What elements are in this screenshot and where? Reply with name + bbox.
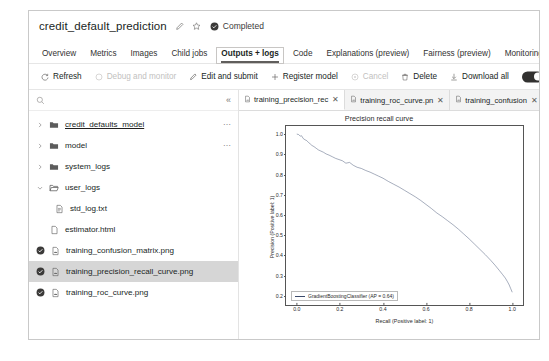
- pivot-tabs: Overview Metrics Images Child jobs Outpu…: [29, 41, 539, 64]
- chart-x-tick: 0.2: [336, 306, 343, 312]
- toggle-switch[interactable]: [522, 71, 540, 82]
- chart-x-axis-label: Recall (Positive label: 1): [285, 318, 524, 324]
- chevron-right-icon[interactable]: [33, 122, 46, 128]
- chart-legend: GradientBoostingClassifier (AP = 0.64): [291, 291, 398, 301]
- refresh-button[interactable]: Refresh: [41, 72, 82, 81]
- tree-item-label[interactable]: system_logs: [62, 162, 110, 171]
- close-icon[interactable]: ✕: [437, 96, 444, 105]
- tree-item-label[interactable]: training_precision_recall_curve.png: [63, 267, 193, 276]
- close-icon[interactable]: ✕: [531, 96, 538, 105]
- delete-button[interactable]: Delete: [401, 72, 437, 81]
- cancel-icon: [351, 73, 359, 81]
- debug-and-monitor-label: Debug and monitor: [107, 72, 177, 81]
- chart-plot-area: GradientBoostingClassifier (AP = 0.64) 0…: [285, 125, 524, 306]
- chart-y-axis-label: Precision (Positive label: 1): [269, 195, 275, 258]
- file-image-icon: [47, 246, 63, 256]
- completed-check-icon: [33, 267, 47, 276]
- overflow-menu-icon[interactable]: ⋯: [223, 120, 232, 129]
- tab-fairness[interactable]: Fairness (preview): [416, 49, 497, 63]
- chart-x-tick: 0.0: [293, 306, 300, 312]
- edit-and-submit-button[interactable]: Edit and submit: [189, 72, 257, 81]
- file-image-icon: [47, 288, 63, 298]
- tab-overview[interactable]: Overview: [35, 49, 83, 63]
- tree-row[interactable]: user_logs: [29, 177, 238, 198]
- tab-images[interactable]: Images: [124, 49, 165, 63]
- tree-item-label[interactable]: estimator.html: [62, 225, 115, 234]
- pencil-icon: [189, 73, 197, 81]
- tab-code[interactable]: Code: [286, 49, 320, 63]
- tab-child-jobs[interactable]: Child jobs: [164, 49, 214, 63]
- tab-metrics[interactable]: Metrics: [83, 49, 123, 63]
- double-chevron-left-icon[interactable]: «: [224, 95, 233, 105]
- pencil-icon[interactable]: [175, 22, 184, 31]
- completed-check-icon: [210, 17, 219, 35]
- tree-row[interactable]: training_roc_curve.png: [29, 282, 238, 303]
- file-text-icon: [51, 204, 67, 214]
- job-detail-window: credit_default_prediction Completed Over…: [28, 10, 540, 340]
- folder-icon: [46, 141, 62, 151]
- chart-title: Precision recall curve: [239, 114, 519, 123]
- trash-icon: [401, 73, 409, 81]
- title-row: credit_default_prediction Completed: [29, 11, 539, 41]
- file-tab-label: training_confusion: [465, 96, 527, 105]
- file-tab-roc-curve[interactable]: training_roc_curve.pn ✕: [345, 90, 450, 110]
- register-model-button[interactable]: Register model: [271, 72, 338, 81]
- tab-monitoring[interactable]: Monitoring: [498, 49, 540, 63]
- search-input[interactable]: [45, 96, 224, 105]
- close-icon[interactable]: ✕: [332, 95, 339, 104]
- download-all-button[interactable]: Download all: [450, 72, 509, 81]
- file-image-icon: [47, 267, 63, 277]
- chevron-right-icon[interactable]: [33, 143, 46, 149]
- tree-row[interactable]: credit_defaults_model ⋯: [29, 114, 238, 135]
- image-file-icon: [350, 95, 357, 105]
- tree-row[interactable]: training_confusion_matrix.png: [29, 240, 238, 261]
- search-row: «: [29, 90, 238, 111]
- tree-row[interactable]: estimator.html: [29, 219, 238, 240]
- view-toggle[interactable]: [522, 71, 540, 82]
- tree-item-label[interactable]: std_log.txt: [67, 204, 107, 213]
- tree-row[interactable]: system_logs: [29, 156, 238, 177]
- chart-y-tick: 0.2: [276, 293, 283, 299]
- command-bar: Refresh Debug and monitor Edit and submi…: [29, 64, 539, 90]
- star-icon[interactable]: [192, 22, 201, 31]
- tab-explanations[interactable]: Explanations (preview): [319, 49, 416, 63]
- tree-row[interactable]: model ⋯: [29, 135, 238, 156]
- tree-row[interactable]: training_precision_recall_curve.png: [29, 261, 238, 282]
- chart-y-tick: 0.6: [276, 212, 283, 218]
- chart-x-tick: 0.8: [466, 306, 473, 312]
- download-all-label: Download all: [462, 72, 509, 81]
- status-label: Completed: [223, 21, 264, 31]
- chart-y-tick: 0.5: [276, 232, 283, 238]
- overflow-menu-icon[interactable]: ⋯: [223, 141, 232, 150]
- image-file-icon: [244, 95, 251, 105]
- chart-y-tick: 0.9: [276, 151, 283, 157]
- file-tab-confusion-matrix[interactable]: training_confusion ✕: [450, 90, 539, 110]
- tree-item-label[interactable]: training_roc_curve.png: [63, 288, 148, 297]
- tree-item-label[interactable]: model: [62, 141, 87, 150]
- chevron-down-icon[interactable]: [33, 185, 46, 191]
- tree-row[interactable]: std_log.txt: [29, 198, 238, 219]
- delete-label: Delete: [413, 72, 437, 81]
- image-viewer: Precision recall curve Precision (Positi…: [239, 111, 539, 340]
- tree-item-label[interactable]: training_confusion_matrix.png: [63, 246, 174, 255]
- page-title: credit_default_prediction: [39, 20, 167, 32]
- screenshot-root: credit_default_prediction Completed Over…: [0, 0, 549, 361]
- chart-curve: [286, 126, 523, 305]
- folder-icon: [46, 120, 62, 130]
- precision-recall-chart: Precision recall curve Precision (Positi…: [239, 111, 539, 340]
- content-body: « credit_defaults_model ⋯: [29, 90, 539, 340]
- image-file-icon: [455, 95, 462, 105]
- legend-line-swatch: [295, 296, 305, 297]
- chart-y-tick: 0.8: [276, 172, 283, 178]
- cancel-button[interactable]: Cancel: [351, 72, 389, 81]
- cancel-label: Cancel: [363, 72, 389, 81]
- chevron-right-icon[interactable]: [33, 164, 46, 170]
- tab-outputs-logs[interactable]: Outputs + logs: [214, 49, 286, 63]
- file-tree: credit_defaults_model ⋯ model ⋯: [29, 111, 238, 303]
- register-model-label: Register model: [283, 72, 338, 81]
- tree-item-label[interactable]: user_logs: [62, 183, 100, 192]
- tree-item-label[interactable]: credit_defaults_model: [62, 120, 144, 129]
- file-tab-precision-recall[interactable]: training_precision_rec ✕: [239, 90, 345, 110]
- debug-and-monitor-button[interactable]: Debug and monitor: [95, 72, 177, 81]
- file-tab-strip: training_precision_rec ✕ training_roc_cu…: [239, 90, 539, 111]
